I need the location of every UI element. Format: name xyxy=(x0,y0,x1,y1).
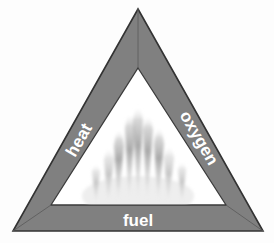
edge-label-fuel: fuel xyxy=(123,211,153,230)
fire-triangle-diagram: heat oxygen fuel xyxy=(0,0,274,243)
fire-triangle-svg: heat oxygen fuel xyxy=(0,0,274,243)
